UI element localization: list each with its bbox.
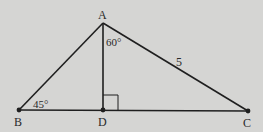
point-c-dot	[246, 109, 251, 114]
side-ac-length-label: 5	[176, 55, 182, 69]
point-d-dot	[101, 108, 106, 113]
segment-ab	[19, 23, 103, 110]
triangle-diagram: A B D C 45° 60° 5	[0, 0, 263, 132]
angle-b-label: 45°	[33, 98, 48, 110]
label-a: A	[98, 8, 107, 22]
label-d: D	[98, 115, 107, 129]
point-b-dot	[17, 108, 22, 113]
right-angle-marker	[103, 95, 118, 110]
label-b: B	[14, 115, 22, 129]
diagram-canvas: A B D C 45° 60° 5	[0, 0, 263, 132]
label-c: C	[243, 116, 251, 130]
segment-bc	[19, 110, 248, 111]
angle-dac-label: 60°	[106, 36, 121, 48]
